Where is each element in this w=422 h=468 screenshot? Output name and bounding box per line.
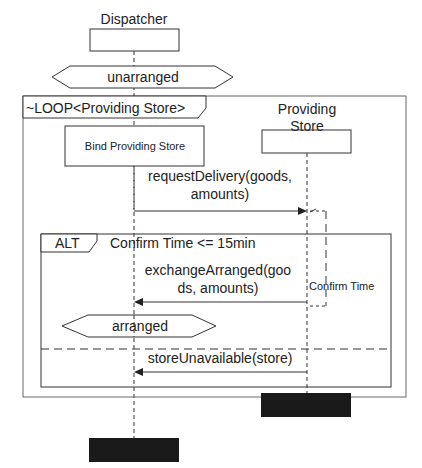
alt-frame-label: ALT bbox=[55, 235, 80, 251]
loop-frame-label: ~LOOP<Providing Store> bbox=[26, 100, 185, 116]
dispatcher-head[interactable] bbox=[90, 29, 179, 51]
alt-guard: Confirm Time <= 15min bbox=[110, 235, 256, 251]
duration-constraint-label: Confirm Time bbox=[309, 280, 374, 292]
arrowhead-right-icon bbox=[298, 207, 307, 215]
providing-store-terminator bbox=[261, 393, 351, 417]
bind-providing-store-label: Bind Providing Store bbox=[85, 140, 185, 152]
msg-store-unavailable: storeUnavailable(store) bbox=[148, 350, 293, 366]
arrowhead-left-icon bbox=[134, 298, 143, 306]
dispatcher-label: Dispatcher bbox=[101, 11, 168, 27]
state-unarranged-label: unarranged bbox=[107, 69, 179, 85]
msg-exchange-arranged-line2: ds, amounts) bbox=[178, 280, 259, 296]
state-arranged-label: arranged bbox=[112, 318, 168, 334]
dispatcher-terminator bbox=[89, 438, 179, 462]
providing-store-label-2: Store bbox=[290, 118, 324, 134]
msg-request-delivery-line1: requestDelivery(goods, bbox=[148, 168, 292, 184]
providing-store-label-1: Providing bbox=[278, 101, 336, 117]
msg-exchange-arranged-line1: exchangeArranged(goo bbox=[145, 262, 292, 278]
arrowhead-left-icon bbox=[134, 368, 143, 376]
msg-request-delivery-line2: amounts) bbox=[191, 186, 249, 202]
